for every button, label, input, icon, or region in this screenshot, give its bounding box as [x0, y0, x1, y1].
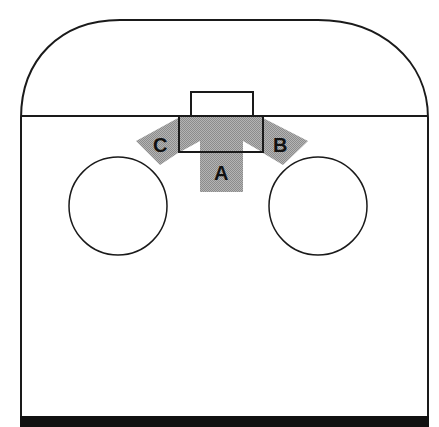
left-circle: [69, 157, 167, 255]
base-bar: [20, 416, 429, 427]
arrow-c-label: C: [153, 134, 167, 156]
fixture-top: [191, 92, 253, 116]
arrow-b-label: B: [273, 134, 287, 156]
enclosure-diagram: C B A: [0, 0, 439, 427]
arrow-a-label: A: [214, 162, 228, 184]
right-circle: [269, 157, 367, 255]
